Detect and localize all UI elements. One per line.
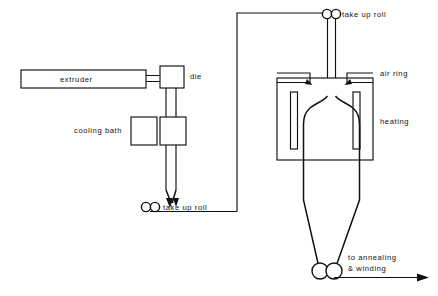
cooling-bath-left-box	[131, 117, 157, 145]
air-ring-label: air ring	[380, 69, 408, 78]
cooling-bath-label: cooling bath	[74, 126, 122, 135]
take-up-roll-lower-circle-left	[141, 202, 150, 211]
take-up-roll-upper-label: take up roll	[342, 10, 386, 19]
take-up-roll-upper-circle-left	[322, 9, 331, 18]
extruder-label: extruder	[60, 75, 93, 84]
die-label: die	[190, 72, 202, 81]
cooling-bath-right-box	[160, 117, 186, 145]
diagram-canvas: extruder die cooling bath take up roll t…	[0, 0, 438, 296]
process-diagram: extruder die cooling bath take up roll t…	[0, 0, 438, 296]
heater-element-left-bar	[291, 92, 298, 149]
die-box	[160, 66, 184, 88]
to-annealing-label-line1: to annealing	[348, 253, 397, 262]
to-annealing-label-line2: & winding	[348, 264, 386, 273]
heating-label: heating	[380, 117, 409, 126]
nip-roll-circle-right	[326, 263, 342, 279]
take-up-roll-upper-circle-right	[331, 9, 340, 18]
bubble-collapse-left	[304, 160, 321, 272]
output-arrow-head-icon	[417, 274, 429, 282]
take-up-roll-lower-circle-right	[150, 202, 159, 211]
take-up-roll-lower-label: take up roll	[163, 203, 207, 212]
